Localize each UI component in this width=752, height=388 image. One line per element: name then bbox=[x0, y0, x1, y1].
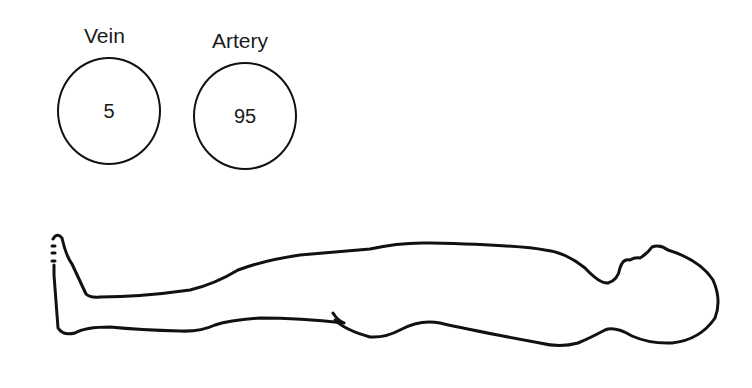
body-outline-icon bbox=[0, 0, 752, 388]
